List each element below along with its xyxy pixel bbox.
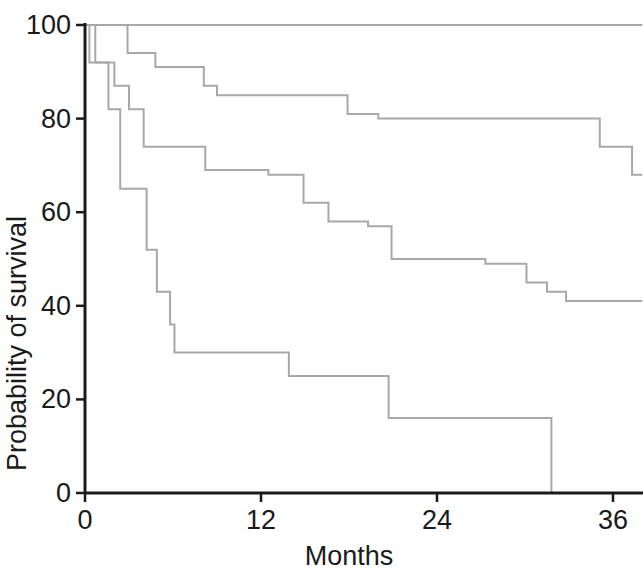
ytick-label-0: 0 xyxy=(0,480,71,507)
survival-curve-2 xyxy=(85,25,642,175)
survival-curves-group xyxy=(85,25,642,493)
xtick-label-24: 24 xyxy=(422,507,452,534)
ytick-label-80: 80 xyxy=(0,105,71,132)
x-axis-title: Months xyxy=(305,543,394,569)
xtick-label-0: 0 xyxy=(77,507,92,534)
axes-group xyxy=(76,23,643,502)
ytick-label-100: 100 xyxy=(0,12,71,39)
xtick-label-12: 12 xyxy=(246,507,276,534)
xtick-label-36: 36 xyxy=(598,507,628,534)
y-axis-title: Probability of survival xyxy=(4,216,31,471)
